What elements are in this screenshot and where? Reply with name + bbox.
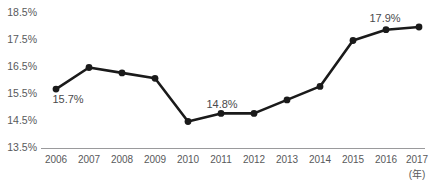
data-point-marker: [416, 24, 423, 31]
x-axis-tick-label: 2013: [276, 154, 299, 165]
data-point-marker: [152, 75, 159, 82]
data-point-marker: [119, 70, 126, 77]
data-point-marker: [317, 83, 324, 90]
data-label-2006: 15.7%: [52, 93, 83, 105]
x-axis-tick-label: 2011: [210, 154, 232, 165]
x-axis-tick-label: 2017: [406, 154, 429, 165]
data-point-marker: [218, 110, 225, 117]
data-point-marker: [251, 110, 258, 117]
data-point-marker: [350, 37, 357, 44]
y-axis-tick-label: 15.5%: [7, 87, 37, 99]
data-label-2016: 17.9%: [369, 12, 400, 24]
x-axis-tick-label: 2008: [111, 154, 134, 165]
line-chart: 18.5% 17.5% 16.5% 15.5% 14.5% 13.5% 15.7…: [0, 0, 431, 183]
y-axis-tick-label: 13.5%: [7, 141, 37, 153]
x-axis-tick-label: 2009: [144, 154, 167, 165]
data-point-marker: [86, 64, 93, 71]
x-axis-tick-label: 2016: [375, 154, 398, 165]
data-point-marker: [383, 26, 390, 33]
x-axis-tick-label: 2010: [177, 154, 200, 165]
chart-canvas: 18.5% 17.5% 16.5% 15.5% 14.5% 13.5% 15.7…: [0, 0, 431, 183]
x-axis-tick-label: 2006: [45, 154, 68, 165]
y-axis-tick-label: 16.5%: [7, 60, 37, 72]
y-axis-tick-label: 17.5%: [7, 33, 37, 45]
data-point-marker: [185, 118, 192, 125]
x-axis-tick-label: 2007: [78, 154, 101, 165]
x-axis-tick-label: 2015: [342, 154, 365, 165]
y-axis-tick-label: 18.5%: [7, 6, 37, 18]
x-axis-unit-label: (年): [409, 168, 426, 180]
data-point-marker: [284, 97, 291, 104]
data-label-2011: 14.8%: [206, 98, 237, 110]
x-axis-tick-label: 2012: [243, 154, 266, 165]
x-axis-tick-label: 2014: [309, 154, 332, 165]
data-point-marker: [53, 86, 60, 93]
y-axis-tick-label: 14.5%: [7, 114, 37, 126]
